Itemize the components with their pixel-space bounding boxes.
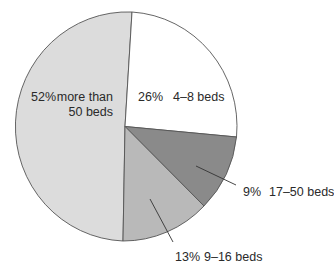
label-4-8-beds: 4–8 beds [173,90,224,104]
label-more-than-50-beds-line2: 50 beds [69,105,113,119]
label-percent-4-8-beds: 26% [138,90,163,104]
slice-more-than-50-beds [15,12,132,241]
label-9-16-beds: 9–16 beds [204,250,262,264]
slice-4-8-beds [125,12,237,137]
label-percent-9-16-beds: 13% [175,250,200,264]
label-percent-17-50-beds: 9% [243,185,261,199]
label-more-than-50-beds-line1: more than [57,90,113,104]
pie-chart: 52% more than 50 beds 26% 4–8 beds 9% 17… [0,0,334,272]
label-17-50-beds: 17–50 beds [269,185,334,199]
label-percent-more-than-50-beds: 52% [31,90,56,104]
